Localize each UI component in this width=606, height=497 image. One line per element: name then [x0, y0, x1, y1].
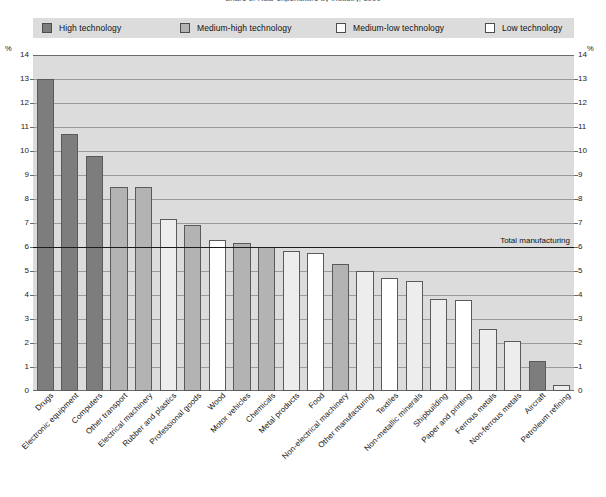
legend-item-low[interactable]: Low technology — [485, 18, 562, 38]
y-tick-mark-left-13 — [30, 79, 34, 80]
bar-electrical-machinery[interactable] — [135, 187, 152, 391]
y-tick-mark-right-9 — [574, 175, 578, 176]
gridline-12 — [33, 103, 574, 104]
y-tick-label-left-14: 14 — [13, 50, 29, 59]
total-manufacturing-line — [33, 247, 574, 248]
x-label-food: Food — [307, 391, 326, 410]
y-tick-mark-left-7 — [30, 223, 34, 224]
bar-motor-vehicles[interactable] — [233, 243, 250, 391]
bar-professional-goods[interactable] — [184, 225, 201, 391]
y-tick-mark-right-6 — [574, 247, 578, 248]
y-tick-mark-right-7 — [574, 223, 578, 224]
y-tick-label-left-5: 5 — [13, 266, 29, 275]
y-tick-label-left-7: 7 — [13, 218, 29, 227]
y-tick-label-right-2: 2 — [578, 338, 594, 347]
y-tick-label-right-12: 12 — [578, 98, 594, 107]
bar-food[interactable] — [307, 253, 324, 391]
y-tick-label-right-10: 10 — [578, 146, 594, 155]
chart-title: Share of R&D expenditure by industry, 19… — [0, 0, 606, 2]
bar-non-ferrous-metals[interactable] — [504, 341, 521, 391]
y-tick-mark-left-9 — [30, 175, 34, 176]
y-tick-mark-left-2 — [30, 343, 34, 344]
bar-petroleum-refining[interactable] — [553, 385, 570, 391]
bar-rubber-and-plastics[interactable] — [160, 219, 177, 391]
gridline-9 — [33, 175, 574, 176]
legend-swatch-high-technology — [42, 23, 52, 33]
y-tick-label-left-3: 3 — [13, 314, 29, 323]
bar-textiles[interactable] — [381, 278, 398, 391]
gridline-10 — [33, 151, 574, 152]
y-tick-label-left-10: 10 — [13, 146, 29, 155]
bar-ferrous-metals[interactable] — [479, 329, 496, 391]
bar-paper-and-printing[interactable] — [455, 300, 472, 391]
bar-other-transport[interactable] — [110, 187, 127, 391]
y-tick-mark-left-8 — [30, 199, 34, 200]
y-tick-label-right-5: 5 — [578, 266, 594, 275]
y-tick-mark-right-12 — [574, 103, 578, 104]
y-tick-mark-left-11 — [30, 127, 34, 128]
y-tick-label-left-8: 8 — [13, 194, 29, 203]
bar-non-metallic-minerals[interactable] — [406, 281, 423, 391]
y-axis-unit-left: % — [5, 44, 12, 53]
y-tick-mark-right-3 — [574, 319, 578, 320]
y-tick-mark-left-3 — [30, 319, 34, 320]
bar-metal-products[interactable] — [283, 251, 300, 391]
y-tick-label-left-12: 12 — [13, 98, 29, 107]
y-tick-label-left-4: 4 — [13, 290, 29, 299]
y-tick-label-left-13: 13 — [13, 74, 29, 83]
y-tick-mark-left-4 — [30, 295, 34, 296]
y-tick-mark-left-1 — [30, 367, 34, 368]
y-tick-mark-right-2 — [574, 343, 578, 344]
bar-wood[interactable] — [209, 240, 226, 391]
bar-computers[interactable] — [86, 156, 103, 391]
x-label-wood: Wood — [207, 391, 228, 412]
bar-aircraft[interactable] — [529, 361, 546, 391]
bar-electronic-equipment[interactable] — [61, 134, 78, 391]
legend-label-high-technology: High technology — [59, 23, 121, 33]
legend-swatch-low-technology — [485, 23, 495, 33]
y-tick-label-left-11: 11 — [13, 122, 29, 131]
legend-label-low-technology: Low technology — [502, 23, 562, 33]
y-tick-mark-right-1 — [574, 367, 578, 368]
bar-non-electrical-machinery[interactable] — [332, 264, 349, 391]
legend-item-high[interactable]: High technology — [42, 18, 121, 38]
y-tick-mark-left-12 — [30, 103, 34, 104]
y-tick-label-left-6: 6 — [13, 242, 29, 251]
y-tick-label-right-4: 4 — [578, 290, 594, 299]
y-tick-mark-right-13 — [574, 79, 578, 80]
plot-area: Total manufacturing — [33, 55, 574, 391]
y-tick-label-right-13: 13 — [578, 74, 594, 83]
y-tick-mark-left-10 — [30, 151, 34, 152]
x-axis-category-labels: DrugsElectronic equipmentComputersOther … — [0, 391, 606, 497]
y-tick-label-right-3: 3 — [578, 314, 594, 323]
legend-item-medium-low[interactable]: Medium-low technology — [336, 18, 444, 38]
gridline-13 — [33, 79, 574, 80]
legend-swatch-medium-high-technology — [180, 23, 190, 33]
y-tick-mark-right-11 — [574, 127, 578, 128]
y-tick-mark-right-5 — [574, 271, 578, 272]
y-tick-label-right-14: 14 — [578, 50, 594, 59]
bar-shipbuilding[interactable] — [430, 299, 447, 391]
y-tick-label-right-8: 8 — [578, 194, 594, 203]
y-tick-label-right-6: 6 — [578, 242, 594, 251]
legend-label-medium-high-technology: Medium-high technology — [197, 23, 291, 33]
y-tick-mark-right-8 — [574, 199, 578, 200]
y-tick-label-left-1: 1 — [13, 362, 29, 371]
y-tick-label-right-7: 7 — [578, 218, 594, 227]
y-tick-mark-right-10 — [574, 151, 578, 152]
y-tick-label-left-9: 9 — [13, 170, 29, 179]
bar-other-manufacturing[interactable] — [356, 271, 373, 391]
chart-legend: High technology Medium-high technology M… — [33, 18, 574, 38]
legend-label-medium-low-technology: Medium-low technology — [353, 23, 444, 33]
legend-item-medium-high[interactable]: Medium-high technology — [180, 18, 291, 38]
y-tick-mark-right-4 — [574, 295, 578, 296]
bar-drugs[interactable] — [37, 79, 54, 391]
y-tick-label-left-2: 2 — [13, 338, 29, 347]
legend-swatch-medium-low-technology — [336, 23, 346, 33]
y-tick-label-right-1: 1 — [578, 362, 594, 371]
gridline-11 — [33, 127, 574, 128]
x-label-drugs: Drugs — [34, 391, 56, 413]
bar-chemicals[interactable] — [258, 247, 275, 391]
total-manufacturing-label: Total manufacturing — [500, 236, 570, 245]
y-tick-label-right-11: 11 — [578, 122, 594, 131]
